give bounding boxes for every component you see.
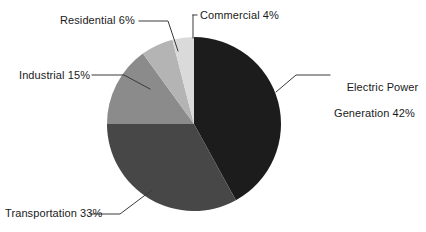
pie-label-residential: Residential 6% [60,14,135,27]
pie-label-electric-power-generation: Electric Power Generation 42% [334,68,418,146]
pie-chart-figure: Commercial 4% Residential 6% Industrial … [0,0,426,232]
pie-label-commercial: Commercial 4% [200,9,279,22]
pie-slices [107,37,281,211]
pie-label-electric-power-line1: Electric Power [347,81,419,93]
pie-label-electric-power-line2: Generation 42% [334,107,418,120]
pie-label-transportation: Transportation 33% [5,207,102,220]
pie-label-industrial: Industrial 15% [19,69,90,82]
leader-line-electric-power [276,75,330,92]
leader-line-commercial [193,15,197,38]
